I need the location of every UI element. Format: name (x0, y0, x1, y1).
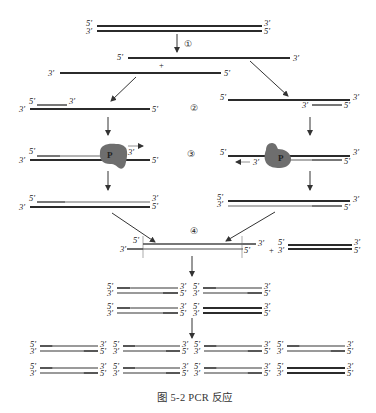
extension-left: 3′ 5′ P 3′ 5′ (18, 144, 158, 169)
dsdna-copy: 5′3′3′5′ (276, 339, 353, 356)
dsdna-copy: 5′3′3′5′ (106, 301, 186, 318)
label-3prime: 3′ (193, 368, 200, 378)
dsdna-product: 5′ 3′ 3′ 5′ (277, 237, 360, 255)
dsdna-copy: 5′3′3′5′ (112, 339, 188, 356)
label-5prime: 5′ (152, 155, 158, 165)
label-5prime: 5′ (29, 96, 35, 106)
label-3prime: 3′ (192, 288, 199, 298)
extension-right: 5′ 3′ 5′ P 3′ (220, 143, 359, 168)
label-5prime: 5′ (182, 368, 188, 378)
polymerase-label: P (278, 153, 284, 163)
label-3prime: 3′ (352, 92, 359, 102)
label-5prime: 5′ (182, 346, 188, 356)
arrow-icon (250, 61, 288, 96)
label-3prime: 3′ (276, 346, 283, 356)
label-5prime: 5′ (354, 245, 360, 255)
label-3prime: 3′ (352, 194, 359, 204)
label-5prime: 5′ (264, 346, 270, 356)
label-5prime: 5′ (264, 368, 270, 378)
step-2-label: ② (190, 103, 198, 113)
dsdna-copy: 5′3′3′5′ (112, 361, 188, 378)
label-5prime: 5′ (180, 308, 186, 318)
label-3prime: 3′ (29, 368, 36, 378)
label-5prime: 5′ (264, 308, 270, 318)
annealed-right: 5′ 3′ 3′ 5′ (220, 92, 359, 110)
label-3prime: 3′ (192, 308, 199, 318)
single-strand-bottom: 3′ 5′ (47, 68, 230, 78)
dsdna-copy: 5′3′3′5′ (106, 281, 186, 298)
step-3-label: ③ (187, 149, 195, 159)
dsdna-copy: 5′3′3′5′ (29, 339, 106, 356)
label-3prime: 3′ (252, 157, 259, 167)
template-dsdna: 5′ 3′ 3′ 5′ (85, 18, 270, 36)
arrow-icon (111, 77, 136, 101)
label-5prime: 5′ (100, 368, 106, 378)
label-5prime: 5′ (264, 26, 270, 36)
label-5prime: 5′ (133, 235, 139, 245)
label-5prime: 5′ (224, 68, 230, 78)
label-5prime: 5′ (100, 346, 106, 356)
plus-sign: + (269, 245, 274, 255)
annealed-left: 3′ 5′ 3′ 5′ (18, 96, 158, 114)
label-3prime: 3′ (112, 346, 119, 356)
pcr-diagram: 5′ 3′ 3′ 5′ ① 5′ 3′ + 3′ 5′ ② 3′ 5′ 3′ 5… (0, 0, 376, 413)
label-5prime: 5′ (220, 92, 226, 102)
label-5prime: 5′ (29, 193, 35, 203)
label-3prime: 3′ (276, 368, 283, 378)
copies-4: 5′3′3′5′5′3′3′5′5′3′3′5′5′3′3′5′ (106, 281, 270, 318)
label-3prime: 3′ (106, 288, 113, 298)
dsdna-copy: 5′3′3′5′ (193, 339, 270, 356)
arrow-icon (226, 212, 275, 241)
label-3prime: 3′ (68, 96, 75, 106)
label-3prime: 3′ (85, 26, 92, 36)
label-3prime: 3′ (106, 308, 113, 318)
label-5prime: 5′ (347, 346, 353, 356)
label-3prime: 3′ (193, 346, 200, 356)
label-5prime: 5′ (117, 52, 123, 62)
label-3prime: 3′ (257, 238, 264, 248)
label-5prime: 5′ (264, 288, 270, 298)
label-5prime: 5′ (180, 288, 186, 298)
label-5prime: 5′ (152, 201, 158, 211)
label-3prime: 3′ (18, 104, 25, 114)
dsdna-copy: 5′3′3′5′ (192, 281, 270, 298)
product-left: 5′ 3′ 3′ 5′ (18, 193, 158, 212)
dsdna-copy: 5′3′3′5′ (192, 301, 270, 318)
step-4-label: ④ (190, 226, 198, 236)
label-3prime: 3′ (119, 244, 126, 254)
target-fragment: 3′ 5′ 3′ 5′ (119, 235, 264, 258)
label-3prime: 3′ (18, 202, 25, 212)
plus-sign: + (159, 60, 164, 70)
label-3prime: 3′ (301, 100, 308, 110)
single-strand-top: 5′ 3′ (117, 52, 299, 63)
label-3prime: 3′ (352, 147, 359, 157)
dsdna-copy: 5′3′3′5′ (29, 361, 106, 378)
label-5prime: 5′ (220, 147, 226, 157)
polymerase-label: P (107, 150, 113, 160)
label-5prime: 5′ (344, 202, 350, 212)
label-3prime: 3′ (29, 346, 36, 356)
product-right: 5′ 3′ 3′ 5′ (216, 192, 359, 212)
label-3prime: 3′ (18, 155, 25, 165)
label-3prime: 3′ (292, 53, 299, 63)
label-3prime: 3′ (216, 199, 223, 209)
label-5prime: 5′ (344, 100, 350, 110)
label-5prime: 5′ (347, 368, 353, 378)
copies-8: 5′3′3′5′5′3′3′5′5′3′3′5′5′3′3′5′5′3′3′5′… (29, 339, 353, 378)
step-1-label: ① (184, 39, 192, 49)
figure-caption: 图 5-2 PCR 反应 (157, 391, 233, 403)
polymerase-blob (100, 144, 127, 169)
dsdna-copy: 5′3′3′5′ (276, 361, 353, 378)
label-5prime: 5′ (29, 146, 35, 156)
dsdna-copy: 5′3′3′5′ (193, 361, 270, 378)
label-5prime: 5′ (244, 245, 250, 255)
label-3prime: 3′ (47, 68, 54, 78)
label-5prime: 5′ (152, 104, 158, 114)
label-3prime: 3′ (127, 147, 134, 157)
label-5prime: 5′ (344, 156, 350, 166)
label-3prime: 3′ (277, 245, 284, 255)
label-3prime: 3′ (112, 368, 119, 378)
